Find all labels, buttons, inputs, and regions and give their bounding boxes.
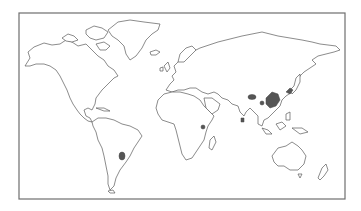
sri-lanka-highlight: [241, 118, 244, 122]
southwest-china-highlight: [260, 101, 264, 105]
east-africa-highlight: [201, 125, 205, 129]
world-map: [0, 0, 361, 211]
tibet-highlight: [248, 95, 256, 100]
paraguay-highlight: [119, 152, 125, 160]
